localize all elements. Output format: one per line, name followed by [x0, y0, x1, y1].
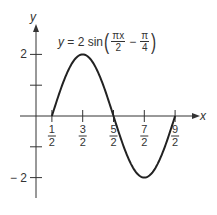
- x-axis-label: x: [199, 109, 207, 123]
- eq-frac2-num: π: [140, 30, 149, 42]
- x-tick-denominator: 2: [141, 136, 147, 148]
- eq-frac1: πx 2: [111, 30, 125, 53]
- x-tick-numerator: 1: [49, 123, 55, 135]
- x-tick-denominator: 2: [49, 136, 55, 148]
- eq-prefix: y = 2 sin: [58, 35, 103, 49]
- eq-frac1-den: 2: [116, 42, 122, 53]
- eq-frac1-num: πx: [111, 30, 125, 42]
- x-tick-denominator: 2: [110, 136, 116, 148]
- eq-minus: −: [129, 35, 136, 49]
- y-tick-label: − 2: [10, 171, 27, 185]
- x-tick-numerator: 7: [141, 123, 147, 135]
- eq-frac2-den: 4: [142, 42, 148, 53]
- eq-frac2: π 4: [140, 30, 149, 53]
- equation-label: y = 2 sin ( πx 2 − π 4 ): [58, 30, 158, 53]
- y-axis-label: y: [29, 10, 37, 24]
- y-tick-label: 2: [20, 47, 27, 61]
- x-tick-numerator: 3: [80, 123, 86, 135]
- x-tick-denominator: 2: [172, 136, 178, 148]
- x-tick-denominator: 2: [80, 136, 86, 148]
